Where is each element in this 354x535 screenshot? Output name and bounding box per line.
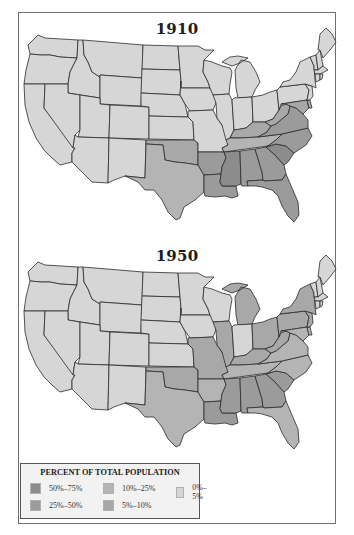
legend-swatch-10-25 — [103, 483, 114, 494]
legend-item-25-50: 25%–50% — [30, 500, 82, 511]
state-wy-1950 — [100, 302, 142, 333]
state-ct-1910 — [315, 74, 320, 82]
legend: PERCENT OF TOTAL POPULATION 50%–75% 10%–… — [20, 463, 200, 519]
state-az-1910 — [72, 135, 109, 183]
state-nd-1910 — [142, 45, 180, 70]
legend-swatch-0-5 — [176, 487, 184, 498]
state-co-1950 — [109, 332, 149, 366]
state-sd-1950 — [141, 296, 181, 322]
state-ri-1910 — [320, 74, 323, 80]
state-sd-1910 — [141, 69, 181, 95]
legend-swatch-50-75 — [30, 483, 41, 494]
legend-swatch-25-50 — [30, 500, 41, 511]
state-az-1950 — [72, 362, 109, 410]
state-wy-1910 — [100, 75, 142, 106]
state-ny-1910 — [280, 57, 316, 88]
state-co-1910 — [109, 105, 149, 139]
us-maps — [0, 0, 354, 535]
map-1950 — [24, 255, 336, 449]
state-ct-1950 — [315, 301, 320, 309]
legend-item-5-10: 5%–10% — [103, 500, 151, 511]
legend-label: 0%–5% — [192, 483, 209, 501]
legend-item-10-25: 10%–25% — [103, 483, 155, 494]
state-ks-1910 — [149, 116, 194, 140]
legend-label: 50%–75% — [49, 484, 82, 493]
state-ri-1950 — [320, 301, 323, 307]
legend-item-0-5: 0%–5% — [176, 483, 210, 501]
legend-label: 5%–10% — [122, 501, 151, 510]
state-mt-1950 — [83, 267, 143, 305]
legend-title: PERCENT OF TOTAL POPULATION — [21, 468, 199, 477]
state-mt-1910 — [83, 40, 143, 78]
state-ks-1950 — [149, 343, 194, 367]
map-1910 — [24, 28, 336, 222]
state-fl-1910 — [247, 174, 299, 222]
legend-item-50-75: 50%–75% — [30, 483, 82, 494]
legend-label: 10%–25% — [122, 484, 155, 493]
legend-label: 25%–50% — [49, 501, 82, 510]
legend-swatch-5-10 — [103, 500, 114, 511]
state-nd-1950 — [142, 272, 180, 297]
state-ny-1950 — [280, 284, 316, 315]
state-fl-1950 — [247, 401, 299, 449]
